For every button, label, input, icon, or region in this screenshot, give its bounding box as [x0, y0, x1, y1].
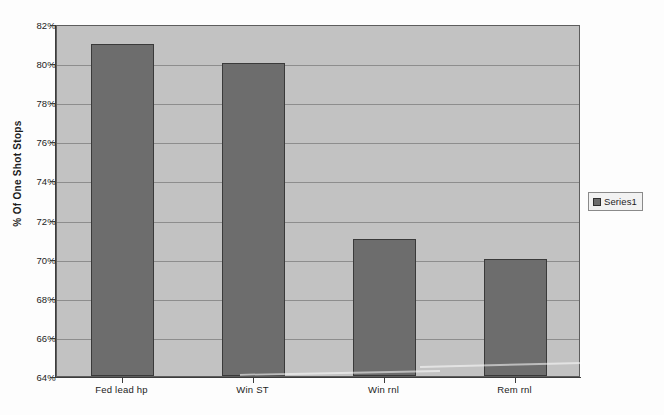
y-axis-tick-mark [50, 103, 55, 104]
bar [353, 239, 416, 376]
bar [484, 259, 547, 376]
y-axis-tick-mark [50, 299, 55, 300]
x-axis-tick-mark [384, 378, 385, 383]
x-axis-tick-mark [253, 378, 254, 383]
x-axis-tick-label: Win rnl [319, 384, 449, 395]
y-axis-title: % Of One Shot Stops [12, 94, 23, 254]
bar [91, 44, 154, 376]
x-axis-tick-mark [122, 378, 123, 383]
bars-layer [57, 26, 579, 376]
legend-item-label: Series1 [604, 196, 637, 207]
y-axis-tick-mark [50, 25, 55, 26]
y-axis-tick-mark [50, 260, 55, 261]
x-axis-tick-label: Fed lead hp [57, 384, 187, 395]
y-axis-tick-mark [50, 221, 55, 222]
y-axis-tick-mark [50, 142, 55, 143]
plot-area [56, 25, 580, 377]
x-axis-tick-label: Rem rnl [450, 384, 580, 395]
x-axis-tick-label: Win ST [188, 384, 318, 395]
x-axis-line [55, 377, 581, 378]
chart-legend[interactable]: Series1 [588, 192, 643, 211]
y-axis-tick-mark [50, 64, 55, 65]
x-axis-tick-mark [515, 378, 516, 383]
chart-screenshot: 82%80%78%76%74%72%70%68%66%64% % Of One … [0, 0, 664, 415]
bar [222, 63, 285, 376]
legend-swatch-icon [593, 198, 601, 206]
y-axis-ticks: 82%80%78%76%74%72%70%68%66%64% [0, 0, 56, 415]
y-axis-tick-mark [50, 181, 55, 182]
y-axis-tick-mark [50, 338, 55, 339]
